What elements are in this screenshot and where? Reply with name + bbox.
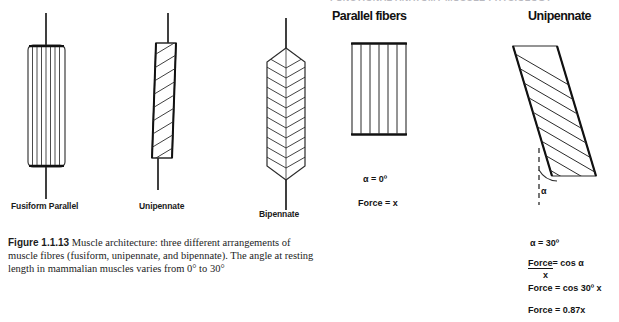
diagram-label-fusiform: Fusiform Parallel xyxy=(11,201,78,211)
unipennate-force-result: Force = 0.87x xyxy=(528,305,585,315)
unipennate-right-outline xyxy=(513,46,596,176)
clipped-header-text: FUNCTIONAL ANATOMY MUSCLE PHYSIOLOGY xyxy=(330,0,615,3)
unipennate-muscle-diagram xyxy=(146,13,186,190)
panel-heading-parallel-fibers: Parallel fibers xyxy=(332,9,407,23)
unipennate-force-fraction-row: Force= cos α xyxy=(528,258,584,268)
unipennate-angle-diagram xyxy=(495,30,619,230)
unipennate-force-cos30-equation: Force = cos 30º x xyxy=(528,283,602,293)
clipped-header-remnant: FUNCTIONAL ANATOMY MUSCLE PHYSIOLOGY xyxy=(330,0,615,5)
figure-caption: Figure 1.1.13 Muscle architecture: three… xyxy=(8,236,320,276)
unipennate-force-numerator: Force xyxy=(528,258,553,269)
figure-page: FUNCTIONAL ANATOMY MUSCLE PHYSIOLOGY xyxy=(0,0,619,322)
unipennate-alpha-symbol: α xyxy=(541,186,547,196)
unipennate-force-denominator: x xyxy=(543,270,548,280)
bipennate-muscle-diagram xyxy=(265,18,307,210)
fusiform-muscle-diagram xyxy=(28,13,65,199)
unipennate-angle-equation: α = 30º xyxy=(530,238,559,248)
panel-heading-unipennate: Unipennate xyxy=(528,9,591,23)
unipennate-force-cos-alpha: = cos α xyxy=(553,258,584,268)
parallel-force-equation: Force = x xyxy=(358,198,398,208)
diagram-label-bipennate: Bipennate xyxy=(259,209,299,219)
diagram-label-unipennate: Unipennate xyxy=(139,201,184,211)
parallel-angle-equation: α = 0º xyxy=(363,174,387,184)
textbook-figure-panel: Fusiform Parallel Unipennate Bipennate F… xyxy=(0,0,330,322)
figure-caption-label: Figure 1.1.13 xyxy=(8,237,69,248)
parallel-fibers-diagram xyxy=(330,30,470,165)
muscle-architecture-diagrams xyxy=(0,0,330,235)
